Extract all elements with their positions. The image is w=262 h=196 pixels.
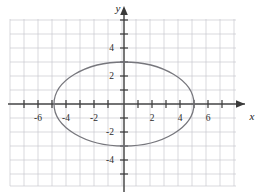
- x-axis-arrowhead: [236, 100, 245, 108]
- x-tick-label: -2: [90, 113, 98, 123]
- y-axis-label: y: [115, 2, 121, 14]
- graph-canvas: -6 -4 -2 2 4 6 4 2 -2 -4 y x: [0, 0, 262, 196]
- x-tick-label: -4: [62, 113, 70, 123]
- y-tick-label: -2: [106, 127, 114, 137]
- y-axis-arrowhead: [120, 6, 128, 15]
- x-axis-label: x: [249, 110, 255, 122]
- grid-lines: [10, 19, 236, 186]
- x-axis: [8, 100, 245, 108]
- y-tick-label: 4: [109, 43, 114, 53]
- coordinate-graph-figure: -6 -4 -2 2 4 6 4 2 -2 -4 y x: [0, 0, 262, 196]
- x-tick-label: 2: [150, 113, 155, 123]
- x-tick-label: 4: [178, 113, 183, 123]
- y-tick-label: -4: [106, 155, 114, 165]
- y-tick-label: 2: [109, 71, 114, 81]
- x-tick-label: -6: [34, 113, 42, 123]
- x-tick-label: 6: [206, 113, 211, 123]
